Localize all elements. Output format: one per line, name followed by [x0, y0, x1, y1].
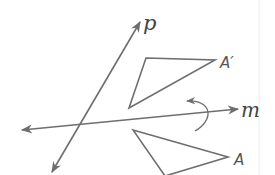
line-p [52, 22, 140, 172]
diagram-canvas: p m A′ A [0, 0, 275, 175]
triangle-a [133, 130, 228, 175]
triangle-a-prime-label: A′ [219, 54, 234, 72]
line-p-label: p [143, 11, 156, 35]
rotation-arrow-icon [187, 101, 208, 131]
line-m [22, 109, 238, 130]
triangle-a-prime [129, 58, 215, 108]
triangle-a-label: A [233, 151, 244, 169]
line-m-label: m [241, 98, 260, 122]
